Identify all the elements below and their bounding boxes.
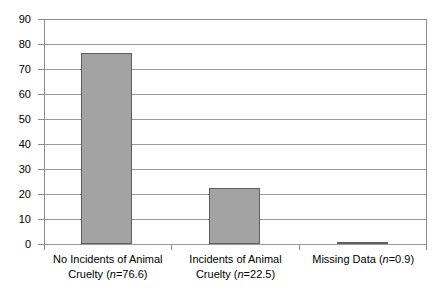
y-axis: 90 80 70 60 50 40 30 20 10 0 xyxy=(0,0,44,294)
x-label-prefix: Cruelty ( xyxy=(196,268,238,280)
x-category-label-line2: Missing Data (n=0.9) xyxy=(301,252,425,267)
x-category-label-missing-data: Missing Data (n=0.9) xyxy=(299,252,427,294)
bar-incidents xyxy=(209,188,260,244)
x-tick-mark xyxy=(44,245,45,250)
x-category-label-line1: Incidents of Animal xyxy=(174,252,298,267)
y-tick-label: 0 xyxy=(25,239,31,250)
y-tick-label: 60 xyxy=(19,89,31,100)
x-category-label-line2: Cruelty (n=22.5) xyxy=(174,267,298,282)
y-tick-label: 50 xyxy=(19,114,31,125)
bar-no-incidents xyxy=(81,53,132,244)
x-label-suffix: =22.5) xyxy=(244,268,276,280)
y-tick-label: 90 xyxy=(19,14,31,25)
x-category-label-line2: Cruelty (n=76.6) xyxy=(46,267,170,282)
x-label-prefix: Cruelty ( xyxy=(68,268,110,280)
bar-chart-figure: 90 80 70 60 50 40 30 20 10 0 xyxy=(0,0,443,294)
y-tick-label: 30 xyxy=(19,164,31,175)
x-category-label-no-incidents: No Incidents of Animal Cruelty (n=76.6) xyxy=(44,252,172,294)
x-label-suffix: =76.6) xyxy=(116,268,148,280)
x-tick-mark xyxy=(171,245,172,250)
x-tick-mark xyxy=(299,245,300,250)
y-tick-label: 40 xyxy=(19,139,31,150)
x-label-suffix: =0.9) xyxy=(389,253,414,265)
x-category-label-incidents: Incidents of Animal Cruelty (n=22.5) xyxy=(172,252,300,294)
x-category-label-line1: No Incidents of Animal xyxy=(46,252,170,267)
bar-missing-data xyxy=(337,242,388,244)
x-label-prefix: Missing Data ( xyxy=(312,253,382,265)
plot-area xyxy=(44,19,427,245)
y-tick-label: 70 xyxy=(19,64,31,75)
y-tick-label: 20 xyxy=(19,189,31,200)
x-axis-ticks xyxy=(44,245,427,250)
bars-layer xyxy=(45,20,426,244)
y-tick-label: 10 xyxy=(19,214,31,225)
y-tick-label: 80 xyxy=(19,39,31,50)
x-tick-mark xyxy=(426,245,427,250)
x-axis-labels: No Incidents of Animal Cruelty (n=76.6) … xyxy=(44,252,427,294)
